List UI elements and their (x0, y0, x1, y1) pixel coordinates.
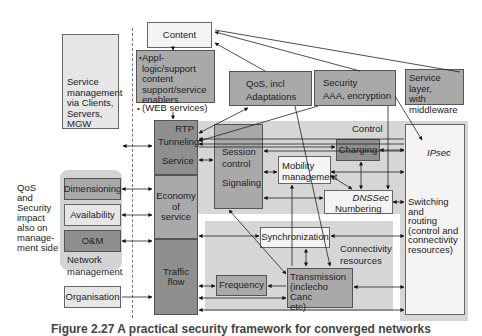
bullet-appl: • (139, 53, 142, 64)
qos-security-note: QoS and Security impact also on manage- … (17, 183, 58, 253)
connectivity-label: Connectivity resources (340, 243, 392, 267)
network-management-label: Network management (67, 254, 122, 278)
security-box: Security AAA, encryption (314, 70, 396, 106)
availability-box: Availability (64, 204, 121, 226)
traffic-flow-box: Traffic flow (154, 239, 198, 315)
economy-of-service-box: Economy of service (154, 175, 198, 239)
web-services-label: • (WEB services) (137, 103, 207, 115)
service-management-label: Service management via Clients, Servers,… (67, 77, 118, 130)
dashed-separator (132, 28, 133, 318)
control-label: Control (352, 124, 383, 135)
switching-routing-box: IPsec Switching and routing (control and… (405, 124, 465, 315)
dimensioning-box: Dimensioning (64, 178, 121, 200)
switching-label: Switching and routing (control and conne… (408, 197, 464, 254)
session-control-box: Session control Signaling (214, 124, 263, 209)
content-box: Content (147, 22, 212, 48)
frequency-box: Frequency (216, 275, 267, 296)
qos-box: QoS, incl Adaptations (229, 71, 312, 106)
service-layer-box: Service layer, with middleware (405, 69, 464, 105)
om-box: O&M (64, 230, 121, 252)
organisation-box: Organisation (64, 286, 121, 308)
transmission-box: Transmission (inclecho Canc etc) (287, 268, 353, 308)
service-stack-box: RTP Tunneling Service (154, 120, 198, 175)
service-management-box: Service management via Clients, Servers,… (62, 34, 119, 129)
mobility-management-box: Mobility management (278, 156, 331, 184)
figure-caption: Figure 2.27 A practical security framewo… (0, 322, 482, 336)
appl-logic-box: Appl- logic/support content support/serv… (136, 50, 215, 103)
dnssec-numbering-box: DNSSec Numbering (324, 190, 393, 214)
synchronization-box: Synchronization (260, 227, 330, 248)
charging-box: Charging (336, 139, 380, 161)
